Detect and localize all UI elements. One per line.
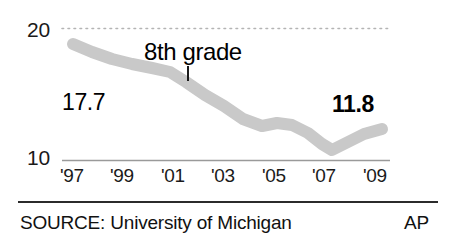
x-axis-tick-05: '05 [262, 166, 286, 185]
x-axis-tick-97: '97 [60, 166, 84, 185]
y-axis-tick-20: 20 [27, 19, 50, 40]
agency-credit: AP [404, 212, 429, 233]
x-axis-tick-labels: '97 '99 '01 '03 '05 '07 '09 [0, 166, 458, 192]
plot-area: 20 10 17.7 11.8 8th grade '97 '99 '01 '0… [0, 0, 458, 195]
footer-divider [18, 201, 438, 203]
y-axis-tick-10: 10 [27, 147, 50, 168]
x-axis-tick-01: '01 [161, 166, 185, 185]
x-axis-tick-09: '09 [363, 166, 387, 185]
data-label-start-value: 17.7 [62, 91, 105, 114]
x-axis-tick-07: '07 [312, 166, 336, 185]
x-axis-tick-99: '99 [110, 166, 134, 185]
series-annotation-label: 8th grade [144, 40, 242, 64]
chart-card: 20 10 17.7 11.8 8th grade '97 '99 '01 '0… [0, 0, 458, 249]
data-label-end-value: 11.8 [332, 93, 374, 116]
source-attribution: SOURCE: University of Michigan [20, 212, 292, 233]
chart-footer: SOURCE: University of Michigan AP [0, 196, 458, 249]
x-axis-tick-03: '03 [211, 166, 235, 185]
